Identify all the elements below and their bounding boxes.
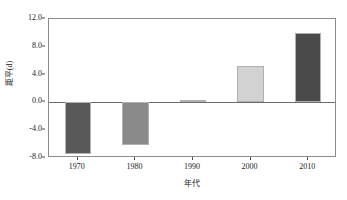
x-tick-mark <box>77 157 78 160</box>
y-tick-label: -4.0 <box>29 125 42 133</box>
x-tick-label: 2000 <box>242 162 258 171</box>
bar-2010 <box>295 33 321 103</box>
y-tick-mark <box>42 157 45 158</box>
x-tick-label: 1990 <box>184 162 200 171</box>
plot-area <box>48 18 336 157</box>
bar-1980 <box>122 102 148 145</box>
x-tick-label: 1970 <box>69 162 85 171</box>
y-tick-label: 8.0 <box>32 42 42 50</box>
bar-1990 <box>180 100 206 102</box>
y-tick-mark <box>42 129 45 130</box>
zero-baseline <box>49 102 335 103</box>
y-tick-mark <box>42 45 45 46</box>
x-tick-mark <box>250 157 251 160</box>
x-tick-mark <box>134 157 135 160</box>
y-tick-label: 12.0 <box>28 14 42 22</box>
y-tick-mark <box>42 101 45 102</box>
x-tick-label: 2010 <box>299 162 315 171</box>
bar-1970 <box>65 102 91 153</box>
y-tick-label: 0.0 <box>32 97 42 105</box>
y-axis-title: 距平(d) <box>3 50 14 98</box>
x-axis-title: 年代 <box>48 177 336 188</box>
bar-2000 <box>237 66 263 102</box>
y-tick-label: 4.0 <box>32 70 42 78</box>
x-axis-tick-labels: 19701980199020002010 <box>48 157 336 177</box>
y-axis-tick-labels: 12.08.04.00.0-4.0-8.0 <box>14 18 45 157</box>
x-tick-mark <box>307 157 308 160</box>
bar-chart-figure: 距平(d) 12.08.04.00.0-4.0-8.0 197019801990… <box>0 0 347 200</box>
x-tick-label: 1980 <box>126 162 142 171</box>
y-tick-mark <box>42 73 45 74</box>
y-tick-mark <box>42 18 45 19</box>
x-tick-mark <box>192 157 193 160</box>
y-tick-label: -8.0 <box>29 153 42 161</box>
